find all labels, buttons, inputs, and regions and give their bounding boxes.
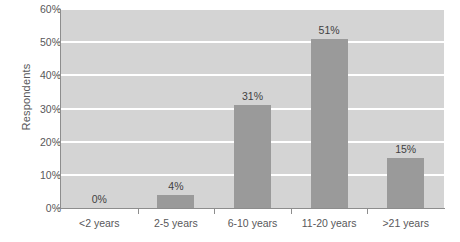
bar-value-label: 15% bbox=[395, 143, 416, 155]
y-axis-tick-label: 0% bbox=[9, 202, 61, 214]
y-axis-tick-label: 50% bbox=[9, 36, 61, 48]
y-axis-tick-label: 10% bbox=[9, 169, 61, 181]
x-axis-category-label: 11-20 years bbox=[302, 217, 357, 229]
bar-value-label: 4% bbox=[168, 180, 183, 192]
plot-area bbox=[61, 9, 444, 208]
x-axis-tick-mark bbox=[291, 209, 292, 214]
x-axis-tick-mark bbox=[367, 209, 368, 214]
x-axis-line bbox=[61, 208, 445, 209]
bar-value-label: 51% bbox=[319, 24, 340, 36]
bar bbox=[234, 105, 271, 208]
gridline bbox=[61, 41, 444, 43]
bar bbox=[157, 195, 194, 208]
y-axis-tick-label: 20% bbox=[9, 136, 61, 148]
bar bbox=[387, 158, 424, 208]
x-axis-category-label: <2 years bbox=[79, 217, 120, 229]
bar-value-label: 31% bbox=[242, 90, 263, 102]
x-axis-category-label: 6-10 years bbox=[228, 217, 278, 229]
bar-value-label: 0% bbox=[92, 193, 107, 205]
x-axis-category-label: >21 years bbox=[382, 217, 428, 229]
gridline bbox=[61, 74, 444, 76]
x-axis-tick-mark bbox=[214, 209, 215, 214]
x-axis-tick-mark bbox=[138, 209, 139, 214]
gridline bbox=[61, 9, 444, 10]
bar-chart: Respondents 0%10%20%30%40%50%60% 0%4%31%… bbox=[0, 0, 460, 242]
y-axis-tick-label: 30% bbox=[9, 103, 61, 115]
x-axis-category-label: 2-5 years bbox=[154, 217, 198, 229]
y-axis-tick-label: 60% bbox=[9, 3, 61, 15]
y-axis-tick-label: 40% bbox=[9, 69, 61, 81]
bar bbox=[311, 39, 348, 208]
y-axis-ticks: 0%10%20%30%40%50%60% bbox=[0, 0, 61, 242]
